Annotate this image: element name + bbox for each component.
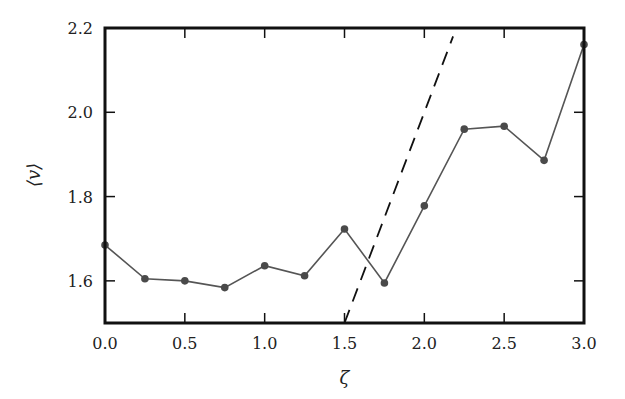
- plot-lines: [105, 36, 584, 323]
- data-point-marker: [261, 262, 269, 270]
- y-tick-label: 2.0: [68, 103, 93, 122]
- x-tick-label: 3.0: [571, 334, 596, 353]
- axis-ticks: [105, 28, 584, 323]
- data-point-marker: [421, 202, 429, 210]
- data-point-marker: [181, 277, 189, 285]
- data-point-marker: [460, 125, 468, 133]
- data-point-marker: [381, 279, 389, 287]
- y-tick-label: 1.8: [68, 188, 93, 207]
- x-tick-label: 1.5: [332, 334, 357, 353]
- x-tick-label: 2.5: [491, 334, 516, 353]
- x-tick-label: 2.0: [412, 334, 437, 353]
- data-markers: [101, 41, 588, 292]
- y-axis-label: ⟨v⟩: [23, 163, 44, 187]
- x-tick-labels: 0.00.51.01.52.02.53.0: [92, 334, 596, 353]
- y-tick-labels: 1.61.82.02.2: [68, 19, 93, 291]
- data-point-marker: [301, 272, 309, 280]
- data-point-marker: [341, 225, 349, 233]
- data-point-marker: [500, 122, 508, 130]
- plot-frame: [105, 28, 584, 323]
- y-tick-label: 1.6: [68, 272, 93, 291]
- data-point-marker: [221, 284, 229, 292]
- x-tick-label: 0.0: [92, 334, 117, 353]
- data-series-line: [105, 44, 584, 287]
- y-tick-label: 2.2: [68, 19, 93, 38]
- data-point-marker: [540, 157, 548, 165]
- x-axis-label: ζ: [340, 367, 351, 388]
- x-tick-label: 1.0: [252, 334, 277, 353]
- data-point-marker: [141, 275, 149, 283]
- reference-dashed-line: [345, 36, 454, 323]
- x-tick-label: 0.5: [172, 334, 197, 353]
- line-chart: 0.00.51.01.52.02.53.0 1.61.82.02.2 ζ ⟨v⟩: [0, 0, 625, 399]
